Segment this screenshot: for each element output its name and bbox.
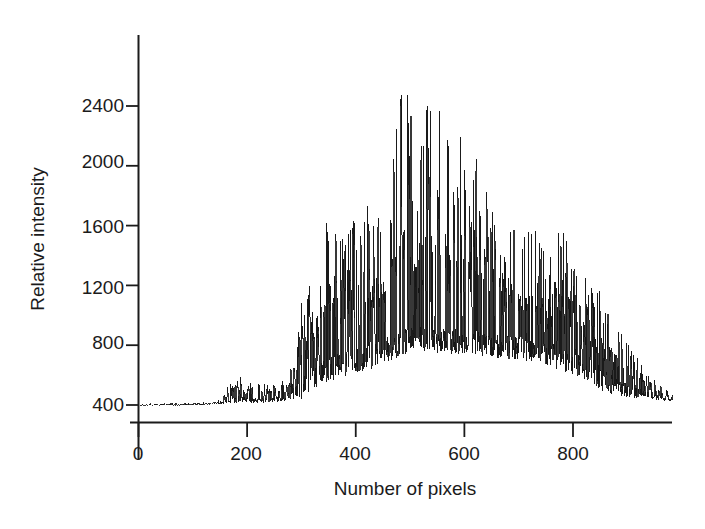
x-tick-label-800: 800 xyxy=(543,443,603,465)
chart-axes xyxy=(126,35,672,460)
figure-container: 400 800 1200 1600 2000 2400 0 200 400 60… xyxy=(0,0,705,529)
x-tick-label-0: 0 xyxy=(118,443,158,465)
x-axis-title: Number of pixels xyxy=(138,478,672,500)
data-trace xyxy=(139,95,674,406)
x-tick-label-400: 400 xyxy=(325,443,385,465)
y-tick-label-2400: 2400 xyxy=(48,95,124,117)
y-tick-label-800: 800 xyxy=(58,332,124,354)
y-axis-title: Relative intensity xyxy=(27,139,49,339)
y-tick-label-400: 400 xyxy=(58,394,124,416)
x-tick-label-600: 600 xyxy=(434,443,494,465)
y-axis-ticks xyxy=(126,106,139,405)
y-tick-label-1600: 1600 xyxy=(48,216,124,238)
x-tick-label-200: 200 xyxy=(216,443,276,465)
x-axis-ticks xyxy=(139,423,574,438)
y-tick-label-1200: 1200 xyxy=(48,277,124,299)
y-tick-label-2000: 2000 xyxy=(48,151,124,173)
